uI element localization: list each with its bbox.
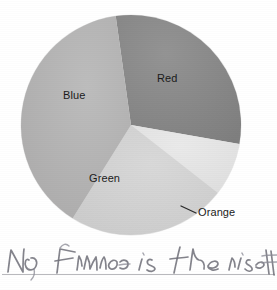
pie-chart-svg: [0, 0, 277, 245]
pie-label-green: Green: [89, 172, 120, 184]
pie-label-blue: Blue: [63, 89, 85, 101]
pie-slice-red[interactable]: [116, 15, 241, 144]
handwriting-strokes: [0, 240, 277, 290]
pie-chart: Red Blue Green Orange: [0, 0, 277, 245]
pie-label-orange: Orange: [198, 206, 235, 218]
handwritten-annotation: [0, 240, 277, 290]
pie-label-red: Red: [157, 72, 177, 84]
scanned-page: Red Blue Green Orange: [0, 0, 277, 290]
